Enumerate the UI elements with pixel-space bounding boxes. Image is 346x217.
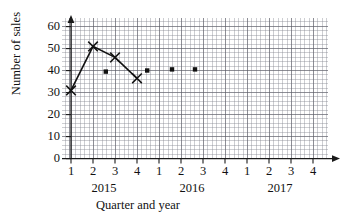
x-tick-marks	[71, 159, 313, 164]
x-tick-label-q2-2017: 2	[262, 165, 276, 178]
y-tick-label-50: 50	[34, 42, 60, 55]
cross-marker-q3-2015	[110, 53, 120, 63]
moving-average-dot-4	[193, 67, 197, 71]
x-tick-label-q3-2015: 3	[108, 165, 122, 178]
moving-average-dot-1	[104, 69, 108, 73]
moving-average-dot-group	[104, 67, 198, 74]
x-year-label-2016: 2016	[170, 182, 214, 195]
y-tick-label-60: 60	[34, 20, 60, 33]
x-tick-label-q3-2017: 3	[284, 165, 298, 178]
x-tick-label-q2-2015: 2	[86, 165, 100, 178]
sales-line-segments	[71, 46, 137, 90]
x-tick-label-q4-2017: 4	[306, 165, 320, 178]
y-tick-label-40: 40	[34, 64, 60, 77]
moving-average-dot-3	[170, 67, 174, 71]
x-tick-label-q4-2016: 4	[218, 165, 232, 178]
cross-marker-q2-2015	[88, 42, 98, 52]
moving-average-dot-2	[145, 68, 149, 72]
y-tick-label-0: 0	[34, 152, 60, 165]
y-tick-label-10: 10	[34, 130, 60, 143]
x-year-label-2017: 2017	[258, 182, 302, 195]
x-tick-label-q1-2017: 1	[240, 165, 254, 178]
x-tick-label-q1-2015: 1	[64, 165, 78, 178]
y-tick-label-20: 20	[34, 108, 60, 121]
cross-marker-q4-2015	[132, 74, 142, 84]
x-tick-label-q2-2016: 2	[174, 165, 188, 178]
x-tick-label-q4-2015: 4	[130, 165, 144, 178]
x-tick-label-q3-2016: 3	[196, 165, 210, 178]
cross-marker-group	[66, 42, 142, 96]
y-tick-label-30: 30	[34, 86, 60, 99]
time-series-graph: Number of sales	[0, 0, 346, 217]
x-tick-label-q1-2016: 1	[152, 165, 166, 178]
x-year-label-2015: 2015	[82, 182, 126, 195]
x-axis-title: Quarter and year	[96, 198, 180, 213]
x-axis-line	[62, 155, 340, 162]
